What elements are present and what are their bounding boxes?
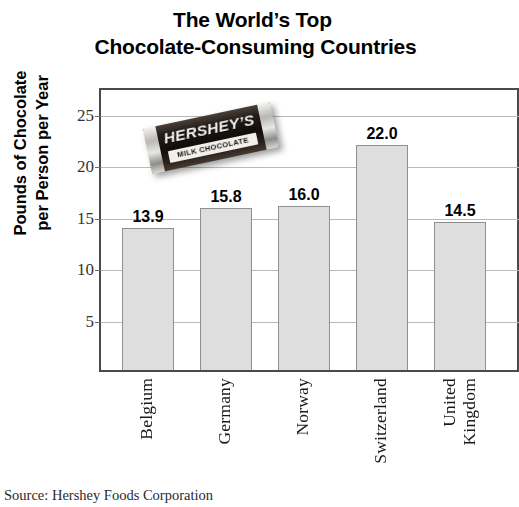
gridline xyxy=(101,116,519,117)
y-tick-mark xyxy=(95,167,101,168)
y-axis-title: Pounds of Chocolate per Person per Year xyxy=(9,33,55,273)
x-category-label-line: Belgium xyxy=(138,378,156,440)
y-tick-mark xyxy=(95,270,101,271)
y-tick-label: 15 xyxy=(77,209,94,229)
bar: 15.8 xyxy=(200,208,252,371)
bar-value-label: 15.8 xyxy=(210,188,241,206)
y-tick-label: 20 xyxy=(77,157,94,177)
chart-title-line-1: The World’s Top xyxy=(0,6,505,33)
bar-value-label: 13.9 xyxy=(132,208,163,226)
x-category-label: Switzerland xyxy=(372,378,388,464)
bar: 16.0 xyxy=(278,206,330,371)
bar-value-label: 22.0 xyxy=(366,125,397,143)
bar: 14.5 xyxy=(434,222,486,371)
y-tick-label: 5 xyxy=(86,312,95,332)
x-category-label: Germany xyxy=(216,378,232,445)
source-note: Source: Hershey Foods Corporation xyxy=(4,487,213,504)
y-axis-title-line-1: Pounds of Chocolate xyxy=(9,33,31,273)
y-tick-mark xyxy=(95,116,101,117)
x-category-label: Norway xyxy=(294,378,310,436)
y-axis-title-line-2: per Person per Year xyxy=(31,33,53,273)
bar: 22.0 xyxy=(356,145,408,371)
y-tick-label: 25 xyxy=(77,106,94,126)
x-category-label: UnitedKingdom xyxy=(441,378,475,446)
y-tick-label: 10 xyxy=(77,260,94,280)
bar-value-label: 14.5 xyxy=(444,202,475,220)
bar-value-label: 16.0 xyxy=(288,186,319,204)
x-category-label-line: Kingdom xyxy=(461,378,479,446)
x-category-label: Belgium xyxy=(138,378,154,440)
chart-title-line-2: Chocolate-Consuming Countries xyxy=(6,33,505,60)
x-category-label-line: Germany xyxy=(216,378,234,445)
x-category-label-line: United xyxy=(441,378,459,427)
y-tick-mark xyxy=(95,322,101,323)
x-category-label-line: Norway xyxy=(294,378,312,436)
y-tick-mark xyxy=(95,219,101,220)
page-title: The World’s Top Chocolate-Consuming Coun… xyxy=(0,6,505,60)
x-category-label-line: Switzerland xyxy=(372,378,390,464)
bar: 13.9 xyxy=(122,228,174,371)
x-axis-line xyxy=(99,370,519,372)
